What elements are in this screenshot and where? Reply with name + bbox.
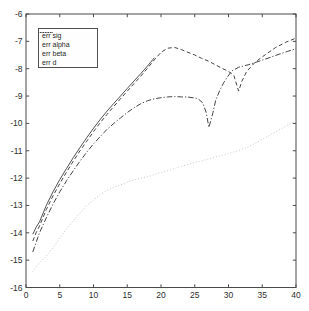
x-tick-label: 0 bbox=[24, 290, 29, 300]
series-line-err-alpha bbox=[33, 38, 296, 241]
y-tick-label: -16 bbox=[10, 283, 23, 293]
legend-item-err-beta: err beta bbox=[42, 49, 95, 58]
legend-item-err-alpha: err alpha bbox=[42, 40, 95, 49]
y-tick-label: -6 bbox=[15, 9, 23, 19]
x-tick-label: 30 bbox=[224, 290, 234, 300]
x-tick-label: 15 bbox=[123, 290, 133, 300]
x-tick-label: 25 bbox=[190, 290, 200, 300]
legend-line-sample-dotted-icon bbox=[39, 29, 53, 36]
y-tick-label: -11 bbox=[11, 146, 23, 156]
legend-label: err alpha bbox=[42, 40, 70, 49]
x-tick-label: 10 bbox=[89, 290, 99, 300]
y-tick-label: -13 bbox=[10, 200, 23, 210]
y-tick-label: -12 bbox=[10, 173, 23, 183]
y-tick-label: -9 bbox=[15, 91, 23, 101]
x-tick-label: 5 bbox=[57, 290, 62, 300]
legend-label: err beta bbox=[42, 49, 66, 58]
x-tick-label: 35 bbox=[258, 290, 268, 300]
y-tick-label: -8 bbox=[15, 64, 23, 74]
series-line-err-d bbox=[33, 121, 296, 272]
legend-item-err-d: err d bbox=[42, 58, 95, 67]
y-tick-label: -15 bbox=[10, 255, 23, 265]
y-tick-label: -14 bbox=[10, 228, 23, 238]
y-tick-label: -7 bbox=[15, 36, 23, 46]
figure: 0510152025303540-16-15-14-13-12-11-10-9-… bbox=[0, 0, 309, 311]
legend: err sigerr alphaerr betaerr d bbox=[38, 28, 98, 68]
legend-label: err d bbox=[42, 58, 56, 67]
x-tick-label: 40 bbox=[291, 290, 301, 300]
y-tick-label: -10 bbox=[10, 118, 23, 128]
x-tick-label: 20 bbox=[156, 290, 166, 300]
